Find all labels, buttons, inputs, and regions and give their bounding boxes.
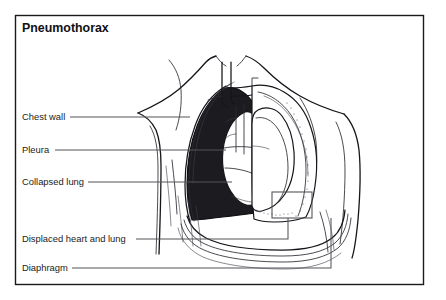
label-pleura: Pleura bbox=[22, 144, 50, 155]
diagram-canvas: Pneumothorax Chest wall Pleura Collapsed… bbox=[0, 0, 446, 300]
label-displaced-heart-and-lung: Displaced heart and lung bbox=[22, 233, 126, 244]
pneumothorax-figure: Pneumothorax Chest wall Pleura Collapsed… bbox=[0, 0, 446, 300]
label-collapsed-lung: Collapsed lung bbox=[22, 176, 84, 187]
figure-title: Pneumothorax bbox=[22, 21, 109, 35]
label-diaphragm: Diaphragm bbox=[22, 262, 68, 273]
label-chest-wall: Chest wall bbox=[22, 111, 65, 122]
